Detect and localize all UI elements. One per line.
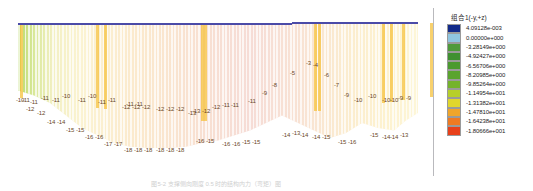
node-value-label: -9 xyxy=(262,90,267,96)
legend-color-swatch xyxy=(447,98,461,107)
node-value-label: -16 xyxy=(95,134,103,140)
node-value-label: -10 xyxy=(62,93,70,99)
node-value-label: -11 xyxy=(41,95,49,101)
node-value-label: -10 xyxy=(354,97,362,103)
legend-panel: 组合1(-y,+z) 4.09128e-0030.00000e+000-3.28… xyxy=(441,14,529,146)
node-value-label: -18 xyxy=(156,147,164,153)
node-value-label: -3 xyxy=(306,60,311,66)
legend-color-swatch xyxy=(447,126,461,135)
legend-color-swatch xyxy=(447,89,461,98)
node-value-label: -14 xyxy=(382,134,390,140)
node-value-label: -6 xyxy=(324,72,329,78)
node-value-label: -12 xyxy=(176,106,184,112)
legend-value-label: -1.47810e+001 xyxy=(466,109,505,115)
mesh-highlight-column xyxy=(390,23,393,102)
contour-plot-panel: -10-11-11-11-11-10-11-10-11-11-11-11-12-… xyxy=(0,0,433,191)
node-value-label: -9 xyxy=(344,92,349,98)
legend-value-label: -3.28149e+000 xyxy=(466,44,505,50)
mesh-highlight-column xyxy=(318,23,321,111)
legend-value-label: -1.64238e+001 xyxy=(466,118,505,124)
node-value-label: -11 xyxy=(222,102,230,108)
node-value-label: -10 xyxy=(382,97,390,103)
node-value-label: -11 xyxy=(231,102,239,108)
node-value-label: -13 xyxy=(400,132,408,138)
legend-color-swatch xyxy=(447,52,461,61)
node-value-label: -14 xyxy=(57,119,65,125)
node-value-label: -11 xyxy=(108,97,116,103)
legend-color-swatch xyxy=(447,108,461,117)
legend-color-swatch xyxy=(447,43,461,52)
plot-canvas: -10-11-11-11-11-10-11-10-11-11-11-11-12-… xyxy=(0,0,433,175)
node-value-label: -8 xyxy=(272,82,277,88)
node-value-label: -15 xyxy=(76,127,84,133)
node-value-label: -14 xyxy=(300,132,308,138)
legend-value-label: -1.31382e+001 xyxy=(466,100,505,106)
mesh-highlight-column xyxy=(204,23,207,121)
legend-color-swatch xyxy=(447,33,461,42)
node-value-label: -12 xyxy=(132,104,140,110)
node-value-label: -11 xyxy=(248,98,256,104)
node-value-label: -10 xyxy=(88,93,96,99)
node-value-label: -17 xyxy=(104,141,112,147)
legend-color-swatch xyxy=(447,24,461,33)
node-value-label: -12 xyxy=(212,104,220,110)
legend-color-swatch xyxy=(447,70,461,79)
node-value-label: -15 xyxy=(252,139,260,145)
node-value-label: -11 xyxy=(52,97,60,103)
legend-value-label: 0.00000e+000 xyxy=(466,35,503,41)
node-value-label: -12 xyxy=(142,104,150,110)
node-value-label: -15 xyxy=(338,139,346,145)
node-value-label: -12 xyxy=(166,106,174,112)
node-value-label: -18 xyxy=(166,147,174,153)
node-value-label: -15 xyxy=(370,132,378,138)
node-value-label: -12 xyxy=(26,106,34,112)
node-value-label: -14 xyxy=(390,134,398,140)
node-value-label: -11 xyxy=(22,97,30,103)
node-value-label: -5 xyxy=(290,70,295,76)
node-value-label: -10 xyxy=(368,93,376,99)
node-value-label: -12 xyxy=(37,110,45,116)
top-edge-segment xyxy=(18,23,292,25)
node-value-label: -15 xyxy=(66,127,74,133)
node-value-label: -18 xyxy=(144,147,152,153)
mesh-highlight-column xyxy=(382,23,385,103)
node-value-label: -17 xyxy=(114,141,122,147)
node-value-label: -16 xyxy=(232,141,240,147)
node-value-label: -9 xyxy=(406,95,411,101)
node-value-label: -18 xyxy=(134,147,142,153)
node-value-label: -11 xyxy=(98,99,106,105)
mesh-highlight-column xyxy=(20,23,23,98)
node-value-label: -14 xyxy=(312,134,320,140)
node-value-label: -11 xyxy=(30,99,38,105)
node-value-label: -15 xyxy=(322,134,330,140)
top-edge-segment xyxy=(414,22,418,24)
node-value-label: -18 xyxy=(124,147,132,153)
node-value-label: -14 xyxy=(282,132,290,138)
figure-root: -10-11-11-11-11-10-11-10-11-11-11-11-12-… xyxy=(0,0,533,191)
node-value-label: -11 xyxy=(78,97,86,103)
node-value-label: -16 xyxy=(196,138,204,144)
legend-value-label: -6.56706e+000 xyxy=(466,63,505,69)
legend-value-label: 4.09128e-003 xyxy=(466,25,502,31)
node-value-label: -12 xyxy=(122,104,130,110)
top-edge-segment xyxy=(292,22,414,24)
node-value-label: -16 xyxy=(348,139,356,145)
node-value-label: -14 xyxy=(47,119,55,125)
node-value-label: -16 xyxy=(222,141,230,147)
mesh-highlight-column xyxy=(96,23,99,108)
node-value-label: -15 xyxy=(242,139,250,145)
node-value-label: -4 xyxy=(313,62,318,68)
figure-caption: 图5-2 支撑侧向刚度 0.5 时的结构内力（弯矩）图 xyxy=(0,180,433,188)
node-value-label: -16 xyxy=(85,134,93,140)
legend-value-label: -8.20985e+000 xyxy=(466,72,505,78)
node-value-label: -13 xyxy=(192,108,200,114)
legend-value-label: -1.14954e+001 xyxy=(466,90,505,96)
mesh-highlight-column xyxy=(104,23,107,109)
node-value-label: -10 xyxy=(390,97,398,103)
node-value-label: -15 xyxy=(206,138,214,144)
node-value-label: -7 xyxy=(334,82,339,88)
mesh-highlight-column xyxy=(402,23,405,100)
legend-value-label: -4.92427e+000 xyxy=(466,53,505,59)
legend-color-swatch xyxy=(447,117,461,126)
node-value-label: -12 xyxy=(202,108,210,114)
